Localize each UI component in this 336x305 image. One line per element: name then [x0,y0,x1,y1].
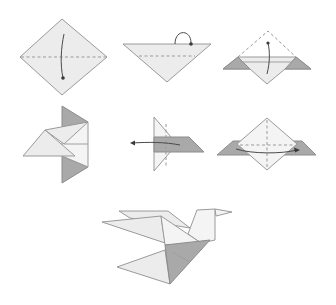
paper-triangle [123,44,211,82]
origami-diagram [0,0,336,305]
step-5-fold-left [130,117,204,171]
step-2-triangle [123,33,211,82]
arrow-head-icon [130,141,135,146]
step-4-side-flaps [23,106,88,183]
flip-arrow-icon [175,33,191,44]
step-1-square-diamond [20,19,107,95]
step-3-triangle-with-flaps [223,31,311,84]
tail-lower [117,250,170,284]
arrow-head-dot-icon [189,42,193,46]
step-7-finished-dove [102,209,232,284]
beak [215,209,232,216]
step-6-fold-across [217,118,316,170]
arrow-head-dot-icon [266,41,269,44]
front-wing [102,216,165,243]
arrow-head-dot-icon [61,76,65,80]
shaded-body-side [165,240,210,284]
